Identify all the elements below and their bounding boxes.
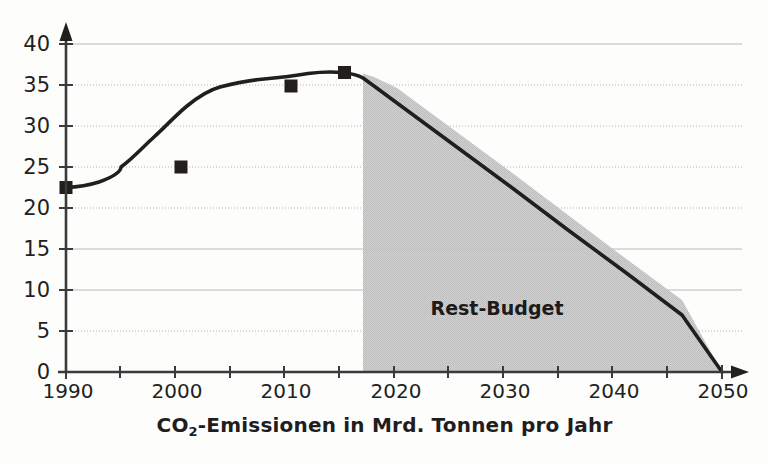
xtick-label-2010: 2010	[261, 379, 312, 403]
chart-caption: CO2-Emissionen in Mrd. Tonnen pro Jahr	[0, 413, 769, 437]
xtick-label-2000: 2000	[152, 379, 203, 403]
caption-rest: -Emissionen in Mrd. Tonnen pro Jahr	[198, 413, 613, 437]
caption-prefix: CO	[157, 413, 189, 437]
ytick-label-20: 20	[23, 196, 50, 220]
ytick-label-15: 15	[23, 237, 50, 261]
ytick-label-40: 40	[23, 32, 50, 56]
co2-emissions-line-chart: 40 35 30 25 20 15 10 5 0 1990 2000 2010 …	[0, 0, 769, 465]
xtick-label-2020: 2020	[371, 379, 422, 403]
xtick-label-2040: 2040	[589, 379, 640, 403]
chart-figure: 40 35 30 25 20 15 10 5 0 1990 2000 2010 …	[0, 0, 769, 465]
rest-budget-label: Rest-Budget	[431, 297, 564, 319]
xtick-label-2050: 2050	[698, 379, 749, 403]
marker-2010	[285, 80, 298, 93]
marker-2000	[175, 161, 188, 174]
ytick-label-10: 10	[23, 278, 50, 302]
xtick-label-2030: 2030	[480, 379, 531, 403]
marker-2015	[338, 66, 351, 79]
ytick-label-35: 35	[23, 73, 50, 97]
caption-subscript: 2	[189, 424, 198, 439]
ytick-label-5: 5	[37, 319, 50, 343]
xtick-label-1990: 1990	[43, 379, 94, 403]
ytick-label-30: 30	[23, 114, 50, 138]
ytick-label-25: 25	[23, 155, 50, 179]
